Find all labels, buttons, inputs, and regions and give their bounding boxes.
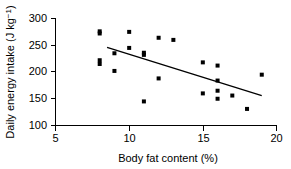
data-point [260, 73, 264, 77]
x-tick-label-20: 20 [270, 132, 282, 144]
data-point [201, 91, 205, 95]
y-axis-title-tail: ) [4, 5, 16, 9]
data-point [98, 58, 102, 62]
y-tick-label-150: 150 [29, 92, 47, 104]
data-point [98, 31, 102, 35]
x-tick-label-15: 15 [197, 132, 209, 144]
data-point [216, 97, 220, 101]
y-tick-label-100: 100 [29, 119, 47, 131]
data-point [201, 60, 205, 64]
data-point [112, 69, 116, 73]
y-tick-label-200: 200 [29, 65, 47, 77]
x-tick-label-10: 10 [123, 132, 135, 144]
data-point [142, 53, 146, 57]
x-axis-title: Body fat content (%) [118, 152, 218, 164]
data-point [98, 62, 102, 66]
x-tick-label-5: 5 [52, 132, 58, 144]
data-point [245, 107, 249, 111]
data-point [216, 89, 220, 93]
data-point [171, 38, 175, 42]
data-point [230, 94, 234, 98]
data-point [216, 64, 220, 68]
data-point [127, 46, 131, 50]
data-point [216, 79, 220, 83]
chart-canvas: 300 250 200 150 100 5 10 15 20 Body fat … [0, 0, 291, 169]
data-point [157, 36, 161, 40]
data-point [157, 76, 161, 80]
y-tick-label-300: 300 [29, 12, 47, 24]
data-point [112, 51, 116, 55]
y-tick-label-250: 250 [29, 39, 47, 51]
y-axis-title: Daily energy intake (J kg−1) [4, 5, 16, 138]
regression-fit-line [107, 47, 262, 95]
y-axis-title-main: Daily energy intake (J kg [4, 18, 16, 138]
x-axis-ticks [56, 126, 277, 131]
data-point [142, 99, 146, 103]
y-axis-ticks [51, 19, 55, 126]
data-point [127, 30, 131, 34]
scatter-chart-figure: 300 250 200 150 100 5 10 15 20 Body fat … [0, 0, 291, 169]
